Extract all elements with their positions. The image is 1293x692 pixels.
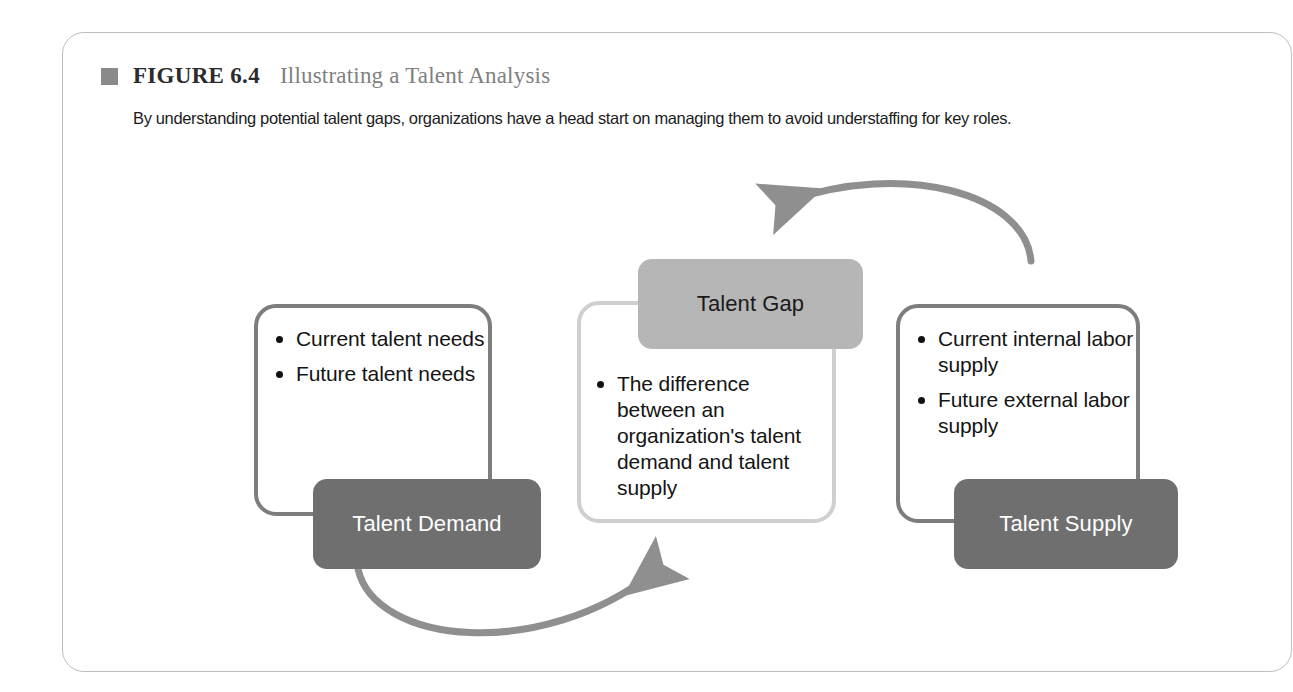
list-item: Future external labor supply [914, 387, 1136, 439]
talent-gap-pill-label: Talent Gap [697, 291, 804, 317]
talent-demand-pill-label: Talent Demand [352, 511, 501, 537]
talent-supply-bullets: Current internal labor supply Future ext… [914, 326, 1136, 439]
list-item: Current talent needs [272, 326, 488, 352]
arrow-demand-to-gap [358, 569, 653, 633]
talent-demand-bullets: Current talent needs Future talent needs [272, 326, 488, 387]
list-item: The difference between an organization's… [593, 371, 832, 501]
talent-analysis-diagram: Current talent needs Future talent needs… [63, 33, 1293, 673]
talent-supply-pill: Talent Supply [954, 479, 1178, 569]
list-item: Current internal labor supply [914, 326, 1136, 378]
arrow-supply-to-gap [788, 183, 1031, 261]
list-item: Future talent needs [272, 361, 488, 387]
talent-demand-pill: Talent Demand [313, 479, 541, 569]
talent-supply-pill-label: Talent Supply [999, 511, 1132, 537]
talent-gap-bullets: The difference between an organization's… [593, 371, 832, 501]
talent-gap-pill: Talent Gap [638, 259, 863, 349]
figure-card: FIGURE 6.4 Illustrating a Talent Analysi… [62, 32, 1292, 672]
